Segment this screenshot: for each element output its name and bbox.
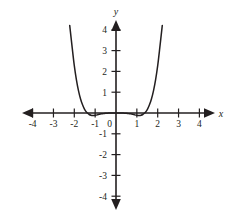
y-tick-label-2: 2 <box>102 67 107 77</box>
x-axis-right-arrowhead <box>204 108 215 118</box>
x-tick-label-3: 3 <box>176 119 181 129</box>
y-tick-label--4: -4 <box>99 192 107 202</box>
x-axis-left-arrowhead <box>22 108 33 118</box>
x-axis-label: x <box>218 108 224 119</box>
x-tick-label--4: -4 <box>29 119 37 129</box>
y-axis-label: y <box>113 6 119 17</box>
y-axis-down-arrowhead <box>111 199 121 210</box>
y-tick-label--1: -1 <box>99 129 107 139</box>
x-tick-label-2: 2 <box>155 119 160 129</box>
x-tick-label--2: -2 <box>70 119 78 129</box>
y-tick-label-1: 1 <box>102 88 107 98</box>
y-tick-label--3: -3 <box>99 171 107 181</box>
y-axis <box>111 20 121 210</box>
graph-figure: -4 -3 -2 -1 1 2 3 4 4 3 2 1 -1 -2 -3 -4 … <box>0 0 233 218</box>
y-tick-label-3: 3 <box>102 46 107 56</box>
coordinate-plane-svg: -4 -3 -2 -1 1 2 3 4 4 3 2 1 -1 -2 -3 -4 … <box>0 0 233 218</box>
y-tick-label-4: 4 <box>102 25 107 35</box>
x-tick-label--1: -1 <box>91 119 99 129</box>
x-tick-label--3: -3 <box>49 119 57 129</box>
y-tick-label--2: -2 <box>99 150 107 160</box>
x-tick-label-1: 1 <box>134 119 139 129</box>
x-tick-label-4: 4 <box>197 119 202 129</box>
origin-label: 0 <box>107 119 112 129</box>
